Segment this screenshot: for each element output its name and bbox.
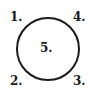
label-1-top-left: 1.	[10, 11, 23, 23]
label-3-bottom-right: 3.	[73, 75, 86, 87]
label-2-bottom-left: 2.	[10, 75, 23, 87]
label-5-center: 5.	[40, 42, 53, 54]
label-4-top-right: 4.	[73, 11, 86, 23]
